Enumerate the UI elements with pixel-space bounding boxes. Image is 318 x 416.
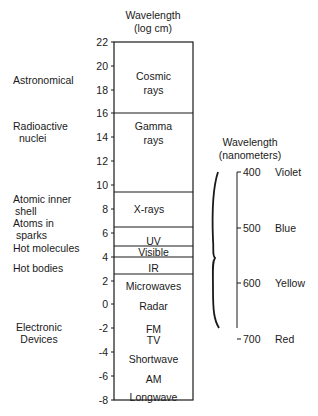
source-atoms-in-sparks: Atoms in sparks	[13, 217, 54, 241]
band-tv: TV	[114, 334, 193, 346]
tick-label: 12	[86, 155, 108, 167]
color-red: Red	[275, 333, 294, 345]
source-hot-bodies: Hot bodies	[13, 262, 63, 274]
source-hot-molecules: Hot molecules	[13, 242, 80, 254]
band-longwave: Longwave	[114, 391, 193, 403]
tick-label: 18	[86, 84, 108, 96]
source-label-line2: sparks	[13, 229, 54, 241]
nm-axis-title: Wavelength (nanometers)	[210, 136, 290, 162]
log-axis-title-line2: (log cm)	[113, 22, 193, 35]
source-label-line2: shell	[13, 205, 71, 217]
tick-label: 2	[86, 275, 108, 287]
source-astronomical: Astronomical	[13, 74, 74, 86]
log-axis-title: Wavelength (log cm)	[113, 9, 193, 35]
source-label-line2: nuclei	[13, 132, 68, 144]
color-blue: Blue	[275, 222, 296, 234]
tick-label: -8	[86, 394, 108, 406]
tick-label: 22	[86, 36, 108, 48]
nm-tick-600: 600	[243, 277, 261, 289]
tick-label: 16	[86, 107, 108, 119]
source-atomic-inner-shell: Atomic inner shell	[13, 193, 71, 217]
tick-label: -2	[86, 322, 108, 334]
source-label-line1: Electronic	[13, 321, 65, 333]
tick-label: -6	[86, 370, 108, 382]
nm-axis-title-line2: (nanometers)	[210, 149, 290, 162]
band-radar: Radar	[114, 300, 193, 312]
tick-label: 0	[86, 298, 108, 310]
band-visible: Visible	[114, 246, 193, 258]
band-label-line1: Cosmic	[114, 70, 193, 82]
band-shortwave: Shortwave	[114, 353, 193, 365]
band-label-line2: rays	[114, 134, 193, 146]
tick-label: 20	[86, 60, 108, 72]
band-microwaves: Microwaves	[114, 280, 193, 292]
tick-label: 8	[86, 203, 108, 215]
band-x-rays: X-rays	[114, 203, 184, 215]
band-label-line1: Gamma	[114, 120, 193, 132]
log-axis-title-line1: Wavelength	[113, 9, 193, 22]
band-ir: IR	[114, 262, 193, 274]
band-gamma-rays: Gamma rays	[114, 120, 193, 146]
source-label-line1: Atomic inner	[13, 193, 71, 205]
band-cosmic-rays: Cosmic rays	[114, 70, 193, 96]
color-violet: Violet	[275, 166, 301, 178]
tick-label: 10	[86, 179, 108, 191]
color-yellow: Yellow	[275, 277, 305, 289]
band-label-line2: rays	[114, 84, 193, 96]
tick-label: -4	[86, 346, 108, 358]
source-label-line1: Radioactive	[13, 120, 68, 132]
nm-tick-400: 400	[243, 166, 261, 178]
nm-tick-700: 700	[243, 333, 261, 345]
tick-label: 6	[86, 227, 108, 239]
band-am: AM	[114, 373, 193, 385]
source-radioactive-nuclei: Radioactive nuclei	[13, 120, 68, 144]
tick-label: 14	[86, 131, 108, 143]
source-label-line2: Devices	[13, 333, 65, 345]
tick-label: 4	[86, 251, 108, 263]
nm-axis-title-line1: Wavelength	[210, 136, 290, 149]
source-label-line1: Atoms in	[13, 217, 54, 229]
nm-tick-500: 500	[243, 222, 261, 234]
source-electronic-devices: Electronic Devices	[13, 321, 65, 345]
